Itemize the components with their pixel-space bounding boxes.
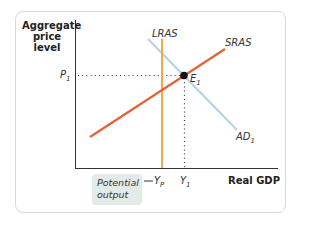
y-axis-title: Aggregate price level (22, 20, 72, 53)
ad-label-text: AD (236, 131, 251, 142)
ad-label: AD1 (236, 131, 255, 147)
y-axis-title-line: Aggregate (22, 20, 72, 31)
callout-line: Potential (92, 174, 142, 189)
y1-label-subscript: 1 (186, 181, 190, 189)
y-axis-title-line: price (22, 31, 72, 42)
yp-label-subscript: P (160, 181, 164, 189)
lras-label: LRAS (152, 28, 178, 39)
equilibrium-label-subscript: 1 (196, 79, 200, 87)
sras-curve (90, 49, 225, 137)
price-label-subscript: 1 (66, 75, 70, 83)
potential-output-callout: Potential output (92, 174, 142, 205)
y1-label: Y1 (180, 175, 191, 191)
callout-line: output (92, 189, 142, 201)
equilibrium-point (180, 72, 188, 80)
yp-label: YP (154, 175, 164, 191)
ad-label-subscript: 1 (251, 137, 255, 145)
equilibrium-label: E1 (190, 73, 201, 89)
sras-label: SRAS (225, 37, 251, 48)
y-axis-title-line: level (22, 42, 72, 53)
x-axis-title: Real GDP (226, 175, 280, 186)
price-label: P1 (60, 69, 71, 85)
